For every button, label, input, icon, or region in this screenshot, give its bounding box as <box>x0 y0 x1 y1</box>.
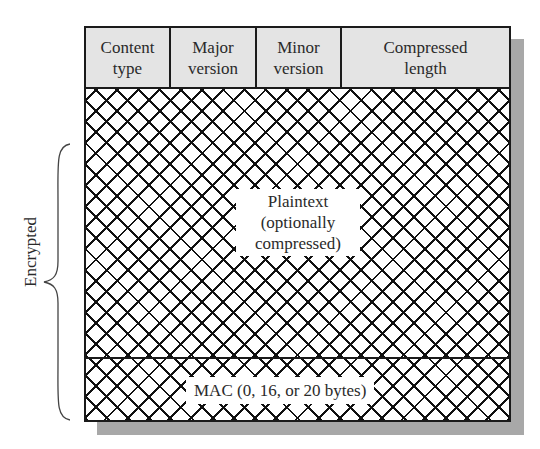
field-compressed-length: Compressedlength <box>342 28 509 87</box>
mac-label: MAC (0, 16, or 20 bytes) <box>186 377 374 404</box>
record-header: Contenttype Majorversion Minorversion Co… <box>86 28 509 89</box>
encrypted-label: Encrypted <box>21 202 45 302</box>
mac-section: MAC (0, 16, or 20 bytes) <box>86 359 509 420</box>
plaintext-label: Plaintext (optionally compressed) <box>236 189 360 256</box>
record-diagram: Contenttype Majorversion Minorversion Co… <box>84 26 511 422</box>
field-label-line2: version <box>188 58 238 79</box>
field-content-type: Contenttype <box>86 28 171 87</box>
field-label-line1: Content <box>101 37 155 58</box>
field-label-line1: Minor <box>273 37 323 58</box>
field-label-line2: version <box>273 58 323 79</box>
field-label-line2: type <box>101 58 155 79</box>
plaintext-line2: (optionally <box>238 212 358 233</box>
field-major-version: Majorversion <box>171 28 257 87</box>
plaintext-section: Plaintext (optionally compressed) <box>86 89 509 359</box>
field-label-line1: Major <box>188 37 238 58</box>
plaintext-line3: compressed) <box>238 233 358 254</box>
plaintext-line1: Plaintext <box>238 191 358 212</box>
field-label-line1: Compressed <box>383 37 467 58</box>
field-label-line2: length <box>383 58 467 79</box>
field-minor-version: Minorversion <box>257 28 342 87</box>
